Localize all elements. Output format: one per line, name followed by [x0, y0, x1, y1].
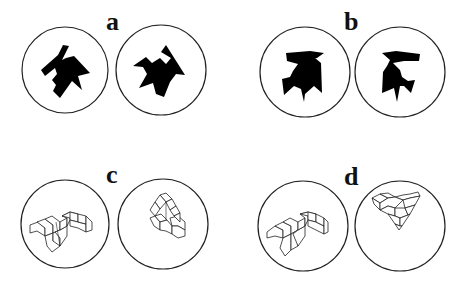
polygon-shape-b-left	[282, 51, 324, 102]
polygon-shape-a-left	[41, 45, 90, 98]
cube-figure-c-right	[150, 193, 185, 238]
panel-a: a	[22, 7, 206, 115]
polygon-shape-b-right	[382, 51, 420, 102]
cube-figure-d-left	[267, 212, 328, 256]
cube-figure-d-right	[372, 192, 420, 230]
panel-label-a: a	[106, 7, 119, 36]
panel-b: b	[260, 7, 445, 117]
mental-rotation-figure: a b c	[0, 0, 464, 285]
polygon-shape-a-right	[133, 45, 185, 97]
cube-figure-c-left	[30, 212, 92, 252]
panel-label-b: b	[344, 7, 358, 36]
panel-label-c: c	[106, 160, 118, 189]
panel-c: c	[21, 160, 208, 269]
panel-label-d: d	[344, 162, 359, 191]
panel-d: d	[258, 162, 445, 271]
